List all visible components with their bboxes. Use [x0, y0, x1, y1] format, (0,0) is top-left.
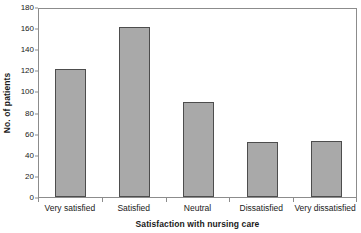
y-axis-tick-label: 20 [25, 173, 34, 181]
x-axis-tick-label: Very dissatisfied [294, 203, 355, 214]
x-axis-tick-labels: Very satisfiedSatisfiedNeutralDissatisfi… [38, 203, 357, 216]
bar [183, 102, 214, 197]
y-axis-tick-label: 140 [21, 46, 34, 54]
x-axis-tick-mark [293, 198, 294, 202]
y-axis-tick-label: 0 [30, 194, 34, 202]
plot-area [38, 8, 357, 198]
bar [55, 69, 86, 197]
bar [247, 142, 278, 197]
bar [311, 141, 342, 197]
y-axis-title-text: No. of patients [2, 72, 12, 133]
y-axis-tick-label: 180 [21, 4, 34, 12]
y-axis-tick-label: 100 [21, 88, 34, 96]
bar-chart-figure: No. of patients 020406080100120140160180… [0, 0, 361, 233]
y-axis-tick-label: 80 [25, 110, 34, 118]
y-axis-tick-label: 40 [25, 152, 34, 160]
y-axis-tick-label: 120 [21, 67, 34, 75]
x-axis-tick-mark [102, 198, 103, 202]
x-axis-tick-marks [38, 198, 357, 202]
x-axis-tick-label: Very satisfied [45, 203, 96, 214]
y-axis-title: No. of patients [0, 0, 14, 205]
x-axis-tick-label: Neutral [184, 203, 211, 214]
x-axis-tick-label: Satisfied [117, 203, 150, 214]
x-axis-tick-mark [229, 198, 230, 202]
x-axis-tick-mark [38, 198, 39, 202]
bar [119, 27, 150, 197]
y-axis-tick-label: 160 [21, 25, 34, 33]
x-axis-tick-label: Dissatisfied [240, 203, 283, 214]
x-axis-tick-mark [356, 198, 357, 202]
x-axis-title: Satisfaction with nursing care [38, 219, 357, 229]
x-axis-tick-mark [166, 198, 167, 202]
y-axis-tick-label: 60 [25, 131, 34, 139]
y-axis-tick-labels: 020406080100120140160180 [14, 0, 38, 205]
